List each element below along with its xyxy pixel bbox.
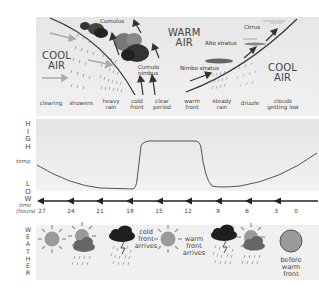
before-warm-front-caption: before warm front — [280, 257, 301, 278]
sun-cloud-rain-icon — [68, 222, 96, 265]
warm-front-arrives-caption: warm front arrives — [183, 236, 206, 257]
cold-front-arrives-caption: cold front arrives — [135, 229, 158, 250]
weather-icons — [0, 0, 319, 291]
sun-cloud-rain-icon — [237, 223, 265, 264]
caption-line: arrives — [135, 243, 158, 250]
sun-icon — [154, 225, 182, 253]
sun-icon — [38, 225, 66, 253]
thunderstorm-icon — [109, 226, 135, 266]
caption-line: front — [280, 271, 301, 278]
caption-line: arrives — [183, 250, 206, 257]
overcast-sun-disc-icon — [280, 230, 302, 252]
thunderstorm-icon — [211, 225, 237, 265]
